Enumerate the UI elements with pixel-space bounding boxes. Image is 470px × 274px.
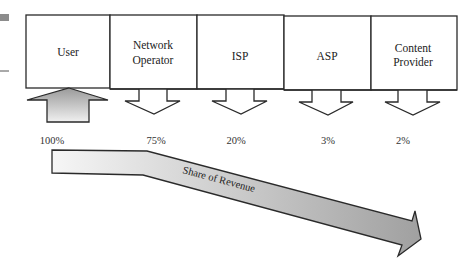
label-user: User [57,46,79,58]
down-arrow-icon [284,90,371,115]
label-content-provider-2: Provider [393,56,433,68]
value-chain-diagram: User Network Operator ISP ASP Content Pr… [0,0,470,274]
down-arrows [110,89,457,115]
share-asp: 3% [321,135,335,146]
label-network-operator-1: Network [133,39,173,51]
box-network-operator [110,15,197,89]
label-content-provider-1: Content [395,42,432,54]
left-bar-decoration [0,14,9,21]
label-network-operator-2: Operator [133,54,174,67]
share-of-revenue-arrow [52,150,421,256]
down-arrow-icon [197,89,284,114]
down-arrow-icon [371,90,457,115]
revenue-shares: 100% 75% 20% 3% 2% [40,135,411,146]
share-content-provider: 2% [396,135,410,146]
share-network-operator: 75% [146,135,166,146]
label-isp: ISP [232,50,249,62]
share-isp: 20% [226,135,246,146]
down-arrow-icon [110,89,197,114]
up-arrow-icon [27,88,108,122]
label-asp: ASP [316,50,337,62]
share-user: 100% [40,135,65,146]
